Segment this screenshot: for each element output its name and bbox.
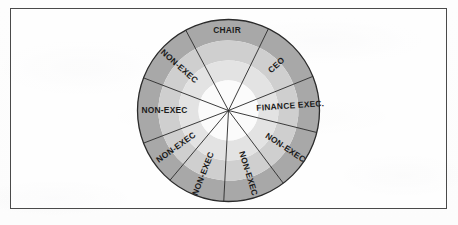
figure-frame [10, 8, 447, 209]
